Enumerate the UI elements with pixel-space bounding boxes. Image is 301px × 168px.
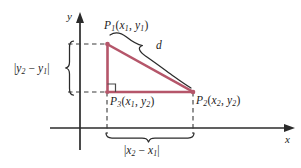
point-label-p3: P3(x1, y2): [110, 96, 154, 109]
brace-vertical-leg: [66, 41, 74, 95]
distance-label-d: d: [156, 40, 162, 52]
vertical-leg-label: |y2 − y1|: [14, 63, 50, 76]
distance-formula-figure: y x P1(x1, y1) P2(x2, y2) P3(x1, y2) d |…: [0, 0, 301, 168]
horizontal-leg-label: |x2 − x1|: [124, 145, 160, 158]
point-label-p1: P1(x1, y1): [104, 20, 148, 33]
brace-horizontal-leg: [106, 133, 194, 142]
p1-x-var: x: [119, 19, 124, 31]
y-axis-arrow-icon: [76, 12, 84, 23]
triangle-hypotenuse: [107, 44, 194, 92]
vertex-dot-p2: [191, 90, 196, 95]
x-axis-label: x: [285, 134, 290, 145]
right-triangle-group: [105, 42, 195, 95]
x-axis-arrow-icon: [284, 124, 295, 132]
y-axis-label: y: [67, 11, 72, 22]
p2-x-var: x: [211, 94, 216, 106]
brace-hypotenuse: [110, 33, 191, 88]
p3-x-var: x: [125, 95, 130, 107]
figure-canvas: [0, 0, 301, 168]
point-label-p2: P2(x2, y2): [196, 95, 240, 108]
vertex-dot-p1: [105, 42, 110, 47]
